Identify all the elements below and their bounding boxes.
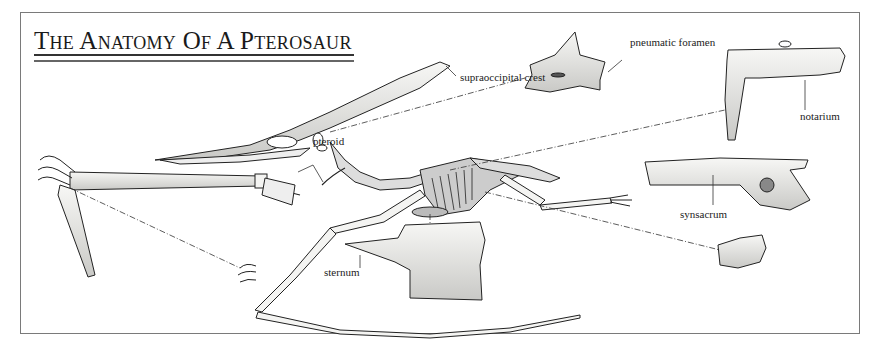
pteroid-bone bbox=[322, 168, 345, 185]
label-synsacrum: synsacrum bbox=[680, 208, 727, 220]
label-notarium: notarium bbox=[800, 110, 840, 122]
vertebra-detail bbox=[525, 32, 605, 92]
sternum-detail bbox=[345, 222, 485, 300]
label-supraoccipital-crest: supraoccipital crest bbox=[460, 71, 545, 83]
wrist-detail bbox=[70, 172, 262, 190]
wing-finger bbox=[256, 312, 580, 338]
label-pteroid: pteroid bbox=[313, 135, 344, 147]
label-pneumatic-foramen: pneumatic foramen bbox=[630, 36, 715, 48]
label-sternum: sternum bbox=[324, 266, 359, 278]
isolated-bone bbox=[718, 235, 766, 268]
leader-wrist bbox=[70, 188, 240, 268]
pterosaur-skeleton-illustration bbox=[0, 0, 880, 351]
synsacrum-detail bbox=[645, 158, 810, 210]
notarium-detail bbox=[725, 48, 845, 140]
